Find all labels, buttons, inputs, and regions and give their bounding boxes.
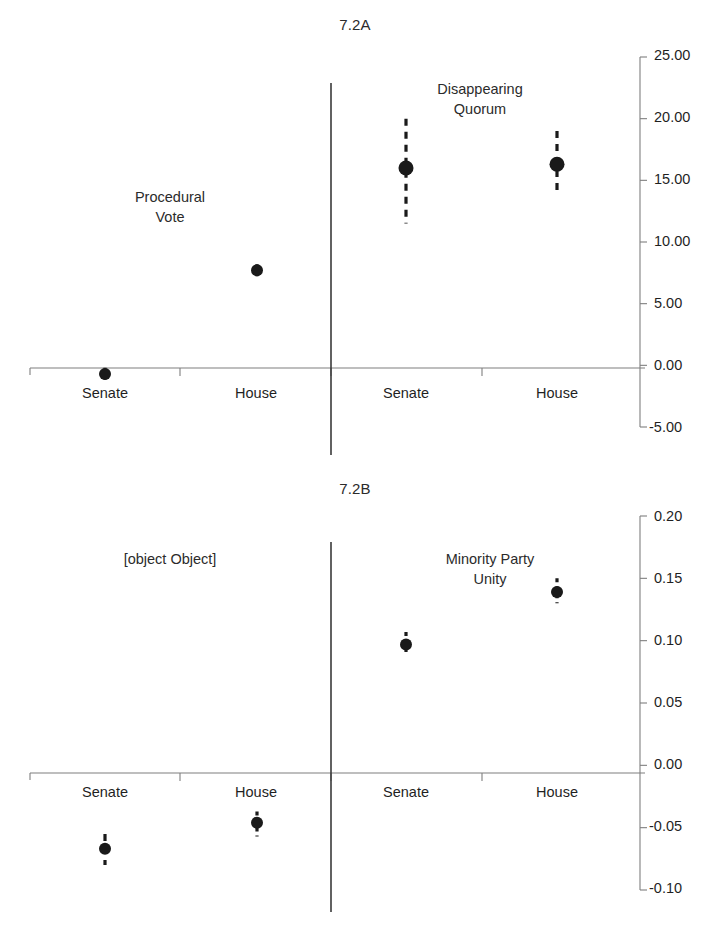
ytick-label-a-1: 20.00 [654, 109, 690, 125]
ytick-label-a-6: -5.00 [649, 419, 682, 435]
ytick-label-b-4: 0.00 [654, 756, 682, 772]
ytick-label-b-5: -0.05 [649, 818, 682, 834]
category-label-b-0: Senate [45, 784, 165, 800]
procedural-vote-label: Procedural Vote [85, 188, 255, 227]
figure-b-plot-area [0, 472, 710, 944]
category-label-b-1: House [196, 784, 316, 800]
category-label-a-2: Senate [346, 385, 466, 401]
category-label-b-2: Senate [346, 784, 466, 800]
ytick-label-b-6: -0.10 [649, 880, 682, 896]
ytick-label-a-5: 0.00 [654, 357, 682, 373]
category-label-a-0: Senate [45, 385, 165, 401]
ytick-label-a-4: 5.00 [654, 295, 682, 311]
category-label-a-3: House [497, 385, 617, 401]
minority-party-unity-label: Minority Party Unity [400, 550, 580, 589]
figure-7-2a: 7.2A Procedural Vote Disappearing Quorum… [0, 0, 710, 472]
figure-7-2b: 7.2B [object Object] Minority Party Unit… [0, 472, 710, 944]
ytick-label-a-2: 15.00 [654, 171, 690, 187]
disappearing-quorum-label: Disappearing Quorum [390, 80, 570, 119]
category-label-a-1: House [196, 385, 316, 401]
ytick-label-a-0: 25.00 [654, 47, 690, 63]
ytick-label-b-0: 0.20 [654, 508, 682, 524]
ytick-label-b-3: 0.05 [654, 694, 682, 710]
figure-a-plot-area [0, 0, 710, 472]
date-rank-label: [object Object] [85, 550, 255, 570]
ytick-label-b-1: 0.15 [654, 570, 682, 586]
ytick-label-b-2: 0.10 [654, 632, 682, 648]
ytick-label-a-3: 10.00 [654, 233, 690, 249]
category-label-b-3: House [497, 784, 617, 800]
